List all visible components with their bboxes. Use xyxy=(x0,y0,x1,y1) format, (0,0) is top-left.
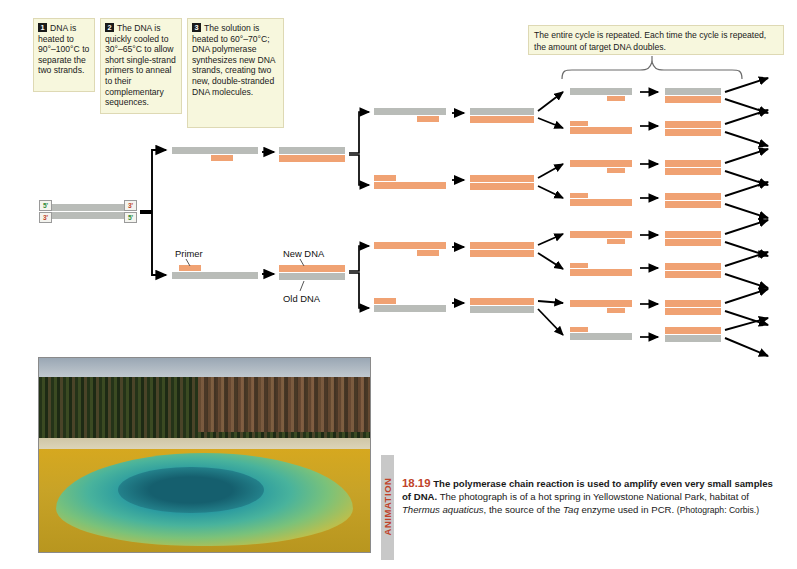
c6-row8-primer xyxy=(570,327,588,332)
caption-body-2: , the source of the xyxy=(484,504,563,515)
c6-row3-template-strand xyxy=(570,160,632,167)
c6-row6-primer xyxy=(570,263,588,268)
c7-row3-new-strand xyxy=(665,168,721,175)
c7-row1-old-strand xyxy=(665,88,721,95)
c2-bottom-old-strand xyxy=(172,272,258,279)
c6-row1-primer xyxy=(607,96,625,101)
step-number-3: 3 xyxy=(192,23,201,32)
c2-top-primer xyxy=(211,155,233,161)
c7-row1-new-strand xyxy=(665,96,721,103)
c7-row6-template-strand xyxy=(665,271,721,278)
figure-number: 18.19 xyxy=(402,477,431,489)
primer-label: Primer xyxy=(175,248,203,259)
new-dna-label: New DNA xyxy=(283,248,324,259)
original-dna-top-strand xyxy=(52,204,124,211)
animation-tab-label: ANIMATION xyxy=(382,454,393,559)
c7-row5-new-strand xyxy=(665,239,721,246)
c5-rowB-new-strand xyxy=(470,175,534,182)
c4-rowC-template-strand xyxy=(374,242,446,249)
step-note-2: 2The DNA is quickly cooled to 30°–65°C t… xyxy=(100,18,182,114)
end-tag-5prime-left: 5' xyxy=(39,200,52,211)
c7-row4-new-strand xyxy=(665,193,721,200)
step-number-1: 1 xyxy=(38,23,47,32)
c4-rowB-primer xyxy=(374,175,396,181)
c3-bottom-new-strand xyxy=(279,265,345,272)
hot-spring-photograph xyxy=(38,357,371,553)
step-text-2: The DNA is quickly cooled to 30°–65°C to… xyxy=(105,23,176,107)
c7-row2-template-strand xyxy=(665,129,721,136)
c3-top-old-strand xyxy=(279,147,345,154)
c7-row2-new-strand xyxy=(665,121,721,128)
animation-tab[interactable]: ANIMATION xyxy=(381,455,394,560)
c6-row4-template-strand xyxy=(570,199,632,206)
species-name: Thermus aquaticus xyxy=(402,504,484,515)
c6-row2-template-strand xyxy=(570,127,632,134)
c2-top-old-strand xyxy=(172,147,258,154)
c4-rowB-template-strand xyxy=(374,182,446,189)
c6-row1-old-strand xyxy=(570,88,632,95)
c7-row3-template-strand xyxy=(665,160,721,167)
c4-rowD-old-strand xyxy=(374,305,446,312)
c4-rowA-old-strand xyxy=(374,108,446,115)
c5-rowD-old-strand xyxy=(470,306,534,313)
end-tag-3prime-right: 3' xyxy=(124,200,137,211)
c5-rowC-template-strand xyxy=(470,242,534,249)
cycle-repeat-note: The entire cycle is repeated. Each time … xyxy=(528,25,784,55)
c7-row7-new-strand xyxy=(665,308,721,315)
c3-top-new-strand xyxy=(279,155,345,162)
enzyme-name: Taq xyxy=(563,504,579,515)
c7-row8-old-strand xyxy=(665,335,721,342)
c6-row7-primer xyxy=(607,308,625,313)
photo-credit: (Photograph: Corbis.) xyxy=(677,505,759,515)
c5-rowB-template-strand xyxy=(470,183,534,190)
c7-row7-template-strand xyxy=(665,300,721,307)
step-number-2: 2 xyxy=(105,23,114,32)
c7-row6-new-strand xyxy=(665,263,721,270)
c6-row5-template-strand xyxy=(570,231,632,238)
c6-row4-primer xyxy=(570,193,588,198)
photo-burned-trees xyxy=(198,377,370,431)
c5-rowC-new-strand xyxy=(470,250,534,257)
end-tag-3prime-left: 3' xyxy=(39,212,52,223)
c5-rowA-old-strand xyxy=(470,108,534,115)
caption-body-1: The photograph is of a hot spring in Yel… xyxy=(437,491,749,502)
photo-pool-deep-center xyxy=(118,467,264,514)
c5-rowA-new-strand xyxy=(470,116,534,123)
pcr-figure: 1DNA is heated to 90°–100°C to separate … xyxy=(0,0,797,569)
c4-rowC-primer xyxy=(417,250,439,256)
c6-row7-template-strand xyxy=(570,300,632,307)
c3-bottom-old-strand xyxy=(279,273,345,280)
c4-rowA-primer xyxy=(417,116,439,122)
c6-row5-primer xyxy=(607,239,625,244)
step-text-3: The solution is heated to 60°–70°C; DNA … xyxy=(192,23,275,97)
end-tag-5prime-right: 5' xyxy=(124,212,137,223)
figure-caption: 18.19 The polymerase chain reaction is u… xyxy=(402,477,782,516)
old-dna-label: Old DNA xyxy=(283,293,320,304)
step-note-3: 3The solution is heated to 60°–70°C; DNA… xyxy=(187,18,284,128)
original-dna-bottom-strand xyxy=(52,212,124,219)
c7-row8-new-strand xyxy=(665,327,721,334)
c6-row3-primer xyxy=(607,168,625,173)
c7-row4-template-strand xyxy=(665,201,721,208)
caption-body-3: enzyme used in PCR. xyxy=(579,504,677,515)
c5-rowD-new-strand xyxy=(470,298,534,305)
c6-row2-primer xyxy=(570,121,588,126)
step-note-1: 1DNA is heated to 90°–100°C to separate … xyxy=(33,18,95,92)
c6-row8-old-strand xyxy=(570,333,632,340)
c6-row6-template-strand xyxy=(570,269,632,276)
c2-bottom-primer xyxy=(179,265,201,271)
c7-row5-template-strand xyxy=(665,231,721,238)
c4-rowD-primer xyxy=(374,298,396,304)
